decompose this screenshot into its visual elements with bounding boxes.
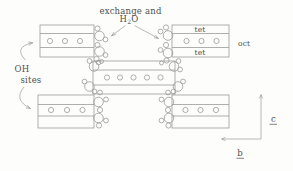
structure-blocks bbox=[38, 25, 229, 128]
oh-sites-label-line2: sites bbox=[21, 75, 42, 85]
axis-c-label: c bbox=[271, 114, 276, 124]
axis-b-label: b bbox=[237, 148, 243, 158]
oh-sites-label-line1: OH bbox=[15, 64, 30, 74]
molecule-sites bbox=[82, 25, 185, 128]
h2o-label-o: O bbox=[131, 14, 138, 24]
tet-bottom-label: tet bbox=[194, 48, 205, 57]
h2o-label-h: H bbox=[120, 14, 128, 24]
tet-top-label: tet bbox=[194, 25, 205, 34]
structure-diagram-svg: exchange and H2O OH sites tet tet oct c … bbox=[0, 0, 293, 171]
structure-figure: exchange and H2O OH sites tet tet oct c … bbox=[0, 0, 293, 171]
arrows bbox=[20, 26, 263, 141]
oct-label: oct bbox=[238, 39, 250, 48]
